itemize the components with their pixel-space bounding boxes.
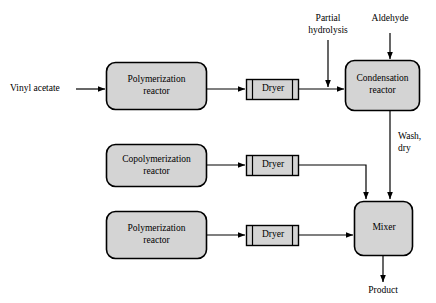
- stream-dryer-middle-to-mixer: [299, 165, 366, 199]
- partial-hydrolysis-line2: hydrolysis: [288, 25, 368, 37]
- node-dryer-top[interactable]: [247, 80, 299, 100]
- node-reactor-bottom[interactable]: [107, 212, 207, 259]
- stream-label-aldehyde: Aldehyde: [355, 13, 425, 25]
- stream-label-wash-dry: Wash, dry: [398, 131, 421, 154]
- wash-dry-line1: Wash,: [398, 131, 421, 143]
- node-reactor-middle[interactable]: [107, 145, 207, 187]
- node-condensation-reactor[interactable]: [346, 61, 420, 111]
- node-mixer[interactable]: [355, 202, 413, 256]
- stream-label-product: Product: [353, 285, 413, 297]
- node-dryer-middle[interactable]: [247, 156, 299, 176]
- node-reactor-top[interactable]: [107, 63, 207, 110]
- process-flow-diagram: Polymerization reactor Dryer Condensatio…: [0, 0, 436, 303]
- node-dryer-bottom[interactable]: [247, 226, 299, 246]
- wash-dry-line2: dry: [398, 143, 421, 155]
- flow-lines-layer: [0, 0, 436, 303]
- stream-label-vinyl-acetate: Vinyl acetate: [10, 83, 60, 95]
